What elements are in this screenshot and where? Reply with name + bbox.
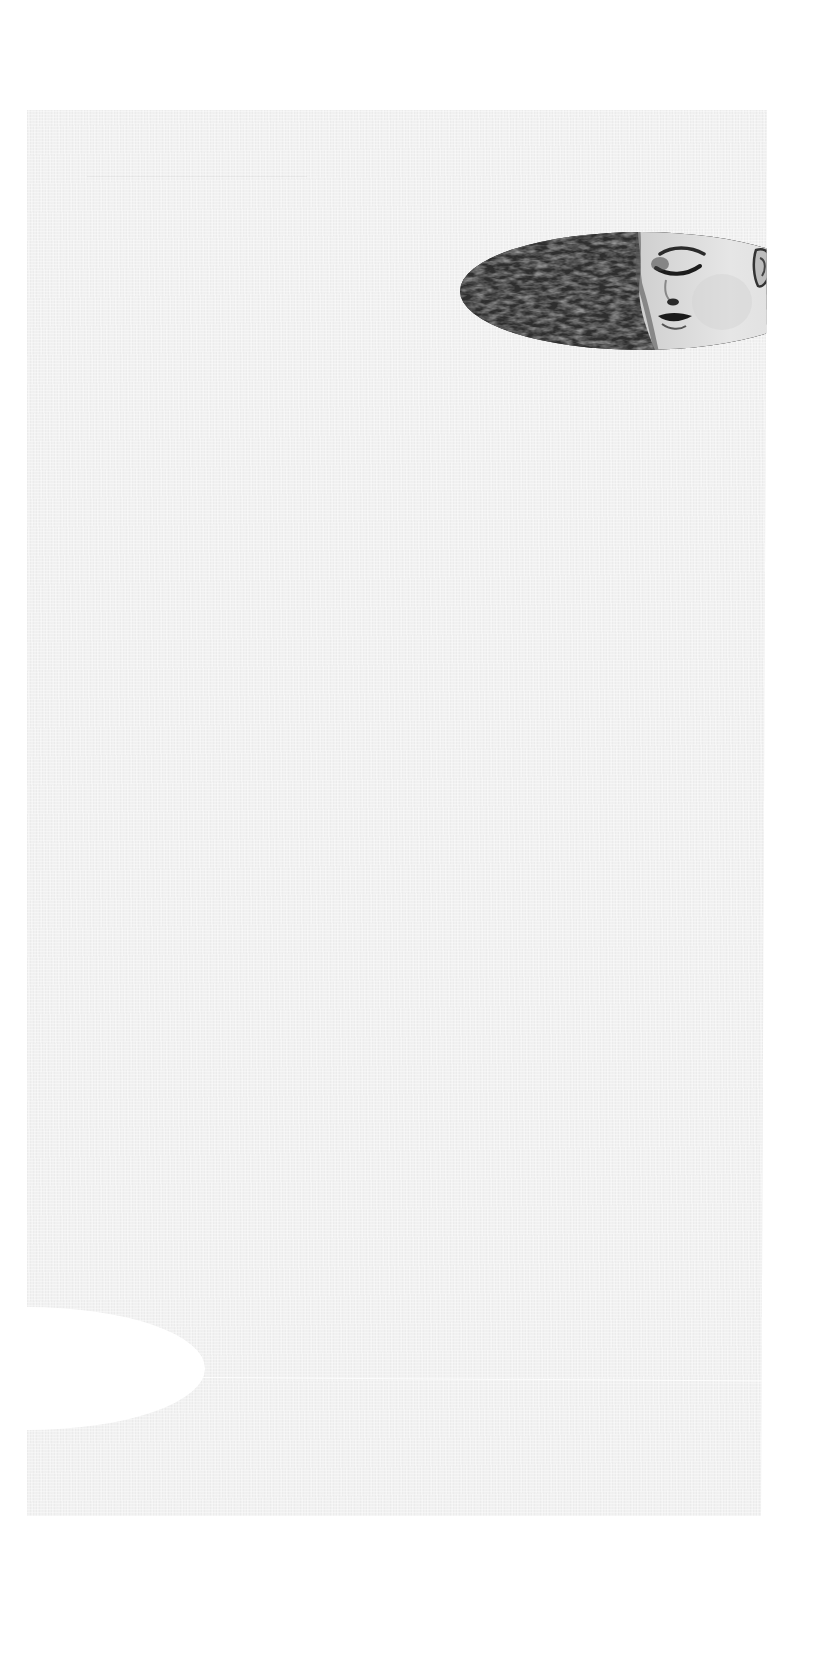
paper-crease-top xyxy=(87,176,307,177)
oval-portrait-photo xyxy=(460,232,767,350)
white-oval-cutout xyxy=(27,1307,205,1430)
textured-paper-page xyxy=(27,110,767,1516)
portrait-image xyxy=(460,232,767,350)
paper-crease-bottom xyxy=(202,1377,762,1381)
